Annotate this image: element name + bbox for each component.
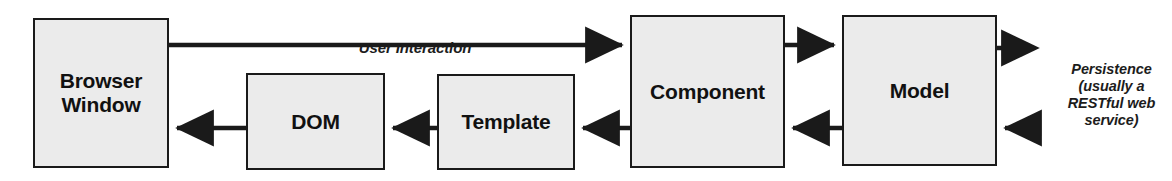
node-model-label: Model — [890, 79, 950, 103]
user-interaction-text: User Interaction — [359, 39, 472, 56]
node-model[interactable]: Model — [842, 15, 997, 166]
flow-diagram: Browser Window DOM Template Component Mo… — [0, 0, 1172, 181]
node-browser-window-label: Browser Window — [60, 69, 143, 116]
node-component[interactable]: Component — [630, 15, 785, 168]
node-browser-window[interactable]: Browser Window — [33, 18, 169, 168]
edge-label-user-interaction: User Interaction — [330, 21, 500, 56]
node-component-label: Component — [650, 80, 765, 104]
node-dom-label: DOM — [291, 110, 339, 134]
edge-label-persistence: Persistence (usually a RESTful web servi… — [1054, 44, 1169, 130]
node-template[interactable]: Template — [437, 74, 575, 170]
persistence-text: Persistence (usually a RESTful web servi… — [1068, 61, 1156, 128]
node-template-label: Template — [461, 110, 550, 134]
node-dom[interactable]: DOM — [246, 73, 385, 170]
